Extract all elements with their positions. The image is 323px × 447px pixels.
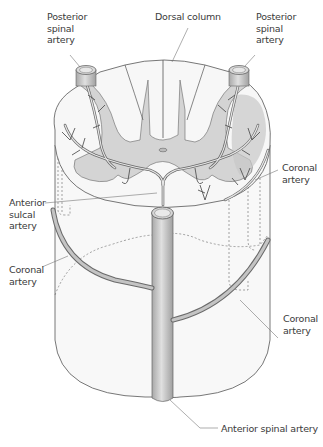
central-canal bbox=[159, 148, 167, 152]
label-coronal-artery-lower-right: Coronal artery bbox=[283, 313, 318, 336]
label-anterior-spinal-artery: Anterior spinal artery bbox=[221, 423, 318, 435]
diagram-illustration bbox=[0, 0, 323, 447]
label-dorsal-column: Dorsal column bbox=[155, 11, 221, 23]
posterior-spinal-artery-left bbox=[76, 66, 96, 87]
spinal-cord-blood-supply-diagram: Posterior spinal artery Dorsal column Po… bbox=[0, 0, 323, 447]
label-anterior-sulcal-artery: Anterior sulcal artery bbox=[9, 197, 46, 232]
label-posterior-spinal-artery-left: Posterior spinal artery bbox=[47, 11, 87, 46]
label-coronal-artery-upper-right: Coronal artery bbox=[282, 162, 317, 185]
label-posterior-spinal-artery-right: Posterior spinal artery bbox=[256, 11, 296, 46]
anterior-spinal-artery bbox=[152, 207, 174, 402]
label-coronal-artery-left: Coronal artery bbox=[9, 264, 44, 287]
posterior-spinal-artery-right bbox=[229, 66, 249, 87]
